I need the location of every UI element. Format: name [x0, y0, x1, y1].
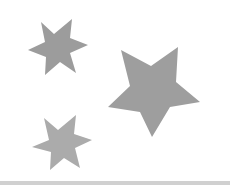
- bottom-divider: [0, 181, 230, 185]
- six-point-star-bottom-icon: [32, 115, 92, 170]
- six-point-star-top-icon: [28, 19, 88, 75]
- star-canvas: [0, 0, 230, 185]
- five-point-star-large-icon: [108, 47, 200, 137]
